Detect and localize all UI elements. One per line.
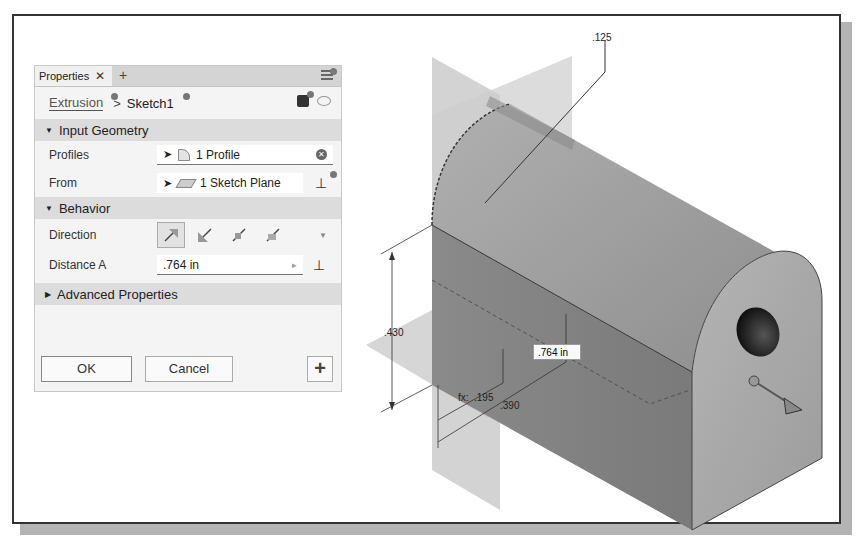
tab-properties[interactable]: Properties ✕: [35, 66, 112, 86]
distance-edit-box[interactable]: .764 in: [533, 344, 581, 360]
manipulator-sphere: [749, 376, 759, 386]
section-label: Input Geometry: [59, 123, 149, 138]
dim-offset-a[interactable]: .195: [474, 392, 493, 403]
marker-dot: [330, 68, 337, 75]
marker-dot: [330, 171, 337, 178]
direction-default-icon: [162, 226, 180, 244]
direction-default-button[interactable]: [157, 222, 185, 248]
ok-button[interactable]: OK: [41, 356, 132, 382]
profiles-value: 1 Profile: [196, 148, 240, 162]
dim-fx-prefix: fx:: [458, 392, 469, 403]
eye-icon[interactable]: [317, 96, 331, 106]
flip-icon[interactable]: ⊥: [315, 175, 327, 191]
from-selector[interactable]: ➤ 1 Sketch Plane: [157, 173, 303, 193]
section-label: Advanced Properties: [57, 287, 178, 302]
dim-offset-b[interactable]: .390: [500, 400, 519, 411]
marker-dot: [183, 93, 190, 100]
row-distance-a: Distance A .764 in ▸ ⊥: [35, 251, 341, 279]
tab-properties-label: Properties: [39, 70, 89, 82]
breadcrumb-sketch[interactable]: Sketch1: [127, 96, 174, 111]
section-input-geometry[interactable]: ▼ Input Geometry: [35, 119, 341, 141]
direction-symmetric-button[interactable]: [225, 222, 253, 248]
row-direction: Direction ▼: [35, 219, 341, 251]
dim-height[interactable]: .430: [384, 327, 403, 338]
distance-a-value: .764 in: [163, 258, 199, 272]
from-label: From: [49, 176, 157, 190]
direction-asymmetric-button[interactable]: [259, 222, 287, 248]
caret-down-icon: ▼: [45, 204, 53, 213]
row-from: From ➤ 1 Sketch Plane ⊥: [35, 169, 341, 197]
dim-radius[interactable]: .125: [592, 32, 611, 43]
breadcrumb: Extrusion > Sketch1: [35, 87, 341, 119]
section-label: Behavior: [59, 201, 110, 216]
caret-right-icon: ▶: [45, 290, 51, 299]
plane-icon: [175, 179, 196, 188]
marker-dot: [111, 93, 118, 100]
arrow-right-icon[interactable]: ▸: [292, 260, 297, 270]
profile-icon: [178, 149, 190, 161]
cursor-arrow-icon: ➤: [163, 148, 172, 161]
section-behavior[interactable]: ▼ Behavior: [35, 197, 341, 219]
direction-label: Direction: [49, 228, 157, 242]
distance-a-input[interactable]: .764 in ▸: [157, 255, 303, 275]
from-value: 1 Sketch Plane: [200, 176, 281, 190]
direction-flipped-button[interactable]: [191, 222, 219, 248]
apply-plus-button[interactable]: +: [307, 356, 333, 382]
panel-tabbar: Properties ✕ +: [35, 66, 341, 87]
direction-asymmetric-icon: [264, 226, 282, 244]
profiles-selector[interactable]: ➤ 1 Profile ✕: [157, 145, 333, 165]
close-icon[interactable]: ✕: [95, 69, 105, 83]
distance-a-label: Distance A: [49, 258, 157, 272]
marker-dot: [307, 91, 314, 98]
breadcrumb-extrusion[interactable]: Extrusion: [49, 95, 103, 111]
flip-icon[interactable]: ⊥: [313, 257, 325, 273]
direction-flipped-icon: [196, 226, 214, 244]
direction-symmetric-icon: [230, 226, 248, 244]
cursor-arrow-icon: ➤: [163, 177, 172, 190]
direction-buttons: [157, 222, 287, 248]
panel-footer: OK Cancel +: [35, 346, 341, 391]
add-tab-button[interactable]: +: [119, 67, 127, 83]
row-profiles: Profiles ➤ 1 Profile ✕: [35, 141, 341, 169]
properties-panel: Properties ✕ + Extrusion > Sketch1 ▼ Inp…: [34, 65, 342, 392]
caret-down-icon: ▼: [45, 126, 53, 135]
section-advanced-properties[interactable]: ▶ Advanced Properties: [35, 283, 341, 305]
profiles-label: Profiles: [49, 148, 157, 162]
clear-icon[interactable]: ✕: [316, 149, 327, 160]
chevron-down-icon[interactable]: ▼: [319, 231, 327, 240]
cancel-button[interactable]: Cancel: [145, 356, 233, 382]
